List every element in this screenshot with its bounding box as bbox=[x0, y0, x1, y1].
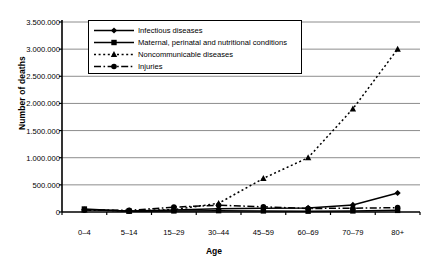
x-axis-tick-label: 70–79 bbox=[342, 228, 363, 237]
legend-item: Noncommunicable diseases bbox=[93, 48, 297, 60]
chart-container: 0500.0001.000.0001.500.0002.000.0002.500… bbox=[0, 0, 428, 263]
legend-label: Infectious diseases bbox=[135, 26, 203, 35]
x-axis-tick-label: 0–4 bbox=[78, 228, 91, 237]
legend-label: Maternal, perinatal and nutritional cond… bbox=[135, 38, 287, 47]
data-point-marker bbox=[216, 202, 222, 208]
x-axis-tick-label: 60–69 bbox=[298, 228, 319, 237]
data-point-marker bbox=[126, 208, 132, 214]
x-axis-tick-label: 45–59 bbox=[253, 228, 274, 237]
data-point-marker bbox=[350, 205, 356, 211]
legend-label: Injuries bbox=[135, 62, 162, 71]
data-point-marker bbox=[216, 208, 221, 213]
x-axis-title: Age bbox=[0, 246, 428, 256]
legend-label: Noncommunicable diseases bbox=[135, 50, 233, 59]
data-point-marker bbox=[111, 63, 117, 69]
data-point-marker bbox=[111, 39, 116, 44]
legend-item: Infectious diseases bbox=[93, 24, 297, 36]
legend-item: Injuries bbox=[93, 60, 297, 72]
x-axis-tick-label: 5–14 bbox=[121, 228, 138, 237]
data-point-marker bbox=[260, 175, 266, 181]
x-axis-tick-label: 80+ bbox=[391, 228, 404, 237]
data-point-marker bbox=[82, 207, 88, 213]
legend-marker-triangle-icon bbox=[93, 49, 135, 60]
legend-item: Maternal, perinatal and nutritional cond… bbox=[93, 36, 297, 48]
data-point-marker bbox=[261, 204, 267, 210]
data-point-marker bbox=[171, 204, 177, 210]
legend-marker-circle-icon bbox=[93, 61, 135, 72]
data-point-marker bbox=[395, 205, 401, 211]
data-point-marker bbox=[305, 206, 311, 212]
legend-marker-square-icon bbox=[93, 37, 135, 48]
x-axis-tick-label: 30–44 bbox=[208, 228, 229, 237]
legend: Infectious diseasesMaternal, perinatal a… bbox=[88, 20, 302, 74]
data-point-marker bbox=[111, 51, 117, 57]
x-axis-tick-label: 15–29 bbox=[163, 228, 184, 237]
data-point-marker bbox=[111, 27, 117, 33]
data-point-marker bbox=[395, 190, 401, 196]
legend-marker-diamond-icon bbox=[93, 25, 135, 36]
